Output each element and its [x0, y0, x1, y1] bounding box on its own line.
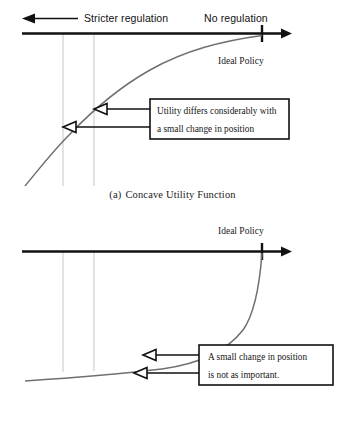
axis-right-arrowhead-convex: [281, 247, 292, 257]
annotation-arrow-upper: [94, 104, 150, 115]
concave-diagram-canvas: Stricter regulation No regulation Ideal …: [0, 0, 345, 214]
stricter-regulation-arrowhead-icon: [22, 14, 35, 24]
annotation-line-1-convex: A small change in position: [208, 352, 308, 362]
label-no-regulation: No regulation: [204, 12, 268, 24]
annotation-line-2-convex: is not as important.: [208, 370, 279, 380]
annotation-line-1: Utility differs considerably with: [157, 106, 277, 116]
figure-convex-utility: Ideal Policy A small change in position …: [0, 214, 345, 428]
annotation-arrow-lower: [63, 122, 150, 133]
axis-right-arrowhead: [281, 29, 292, 39]
label-stricter-regulation: Stricter regulation: [84, 12, 168, 24]
annotation-line-2: a small change in position: [157, 124, 254, 134]
caption-tag-a: (a): [109, 189, 121, 200]
caption-text-a: Concave Utility Function: [125, 189, 235, 200]
label-ideal-policy-convex: Ideal Policy: [218, 226, 264, 236]
label-ideal-policy: Ideal Policy: [218, 56, 264, 66]
convex-diagram-canvas: Ideal Policy A small change in position …: [0, 214, 345, 428]
annotation-arrow-lower-convex: [134, 368, 199, 379]
gridlines-group: [63, 33, 94, 186]
caption-concave: (a)Concave Utility Function: [0, 189, 345, 200]
figure-concave-utility: Stricter regulation No regulation Ideal …: [0, 0, 345, 214]
annotation-arrow-upper-convex: [143, 350, 199, 361]
gridlines-group-convex: [63, 251, 94, 372]
